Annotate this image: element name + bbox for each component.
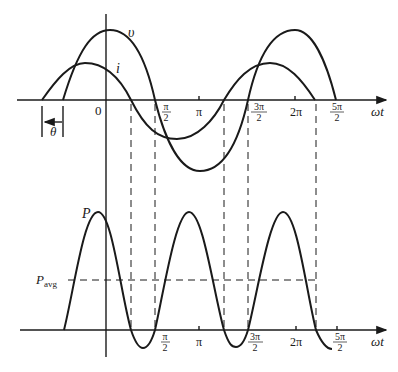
- svg-text:2π: 2π: [290, 335, 302, 349]
- svg-text:π: π: [163, 101, 168, 112]
- svg-text:3π: 3π: [250, 331, 260, 342]
- svg-text:5π: 5π: [332, 101, 342, 112]
- svg-text:2π: 2π: [290, 105, 302, 119]
- svg-text:π: π: [196, 105, 202, 119]
- svg-text:2: 2: [338, 342, 343, 353]
- svg-text:2: 2: [257, 112, 262, 123]
- theta-indicator: θ: [42, 106, 63, 139]
- theta-label: θ: [50, 124, 57, 139]
- lower-tick-labels: π 2 π 3π 2 2π 5π 2 ωt: [161, 331, 384, 353]
- power-label: P: [81, 206, 91, 221]
- lower-axis-label: ωt: [371, 334, 384, 349]
- svg-text:5π: 5π: [335, 331, 345, 342]
- svg-text:2: 2: [335, 112, 340, 123]
- origin-label: 0: [95, 103, 102, 118]
- current-label: i: [116, 61, 120, 76]
- voltage-label: υ: [128, 25, 134, 40]
- svg-text:π: π: [162, 331, 167, 342]
- svg-text:3π: 3π: [254, 101, 264, 112]
- upper-tick-labels: π 2 π 3π 2 2π 5π 2 ωt: [162, 101, 384, 123]
- current-curve: [42, 63, 315, 139]
- svg-text:2: 2: [163, 342, 168, 353]
- svg-text:2: 2: [164, 112, 169, 123]
- waveform-diagram: θ υ i 0 P Pavg π 2 π 3π 2 2π 5π 2 ωt π 2…: [0, 0, 398, 372]
- p-avg-label: Pavg: [35, 272, 57, 289]
- svg-text:2: 2: [253, 342, 258, 353]
- svg-text:π: π: [196, 335, 202, 349]
- upper-axis-label: ωt: [371, 104, 384, 119]
